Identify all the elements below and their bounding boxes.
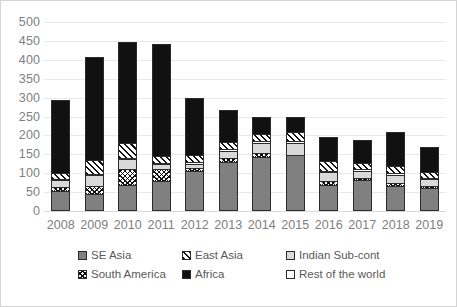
- x-axis-labels: 2008200920102011201220132014201520162017…: [44, 213, 446, 237]
- segment-2014-east-asia: [252, 134, 271, 142]
- bar-2016[interactable]: [319, 137, 338, 211]
- legend-swatch-east-asia: [182, 251, 191, 260]
- legend-swatch-south-america: [78, 270, 87, 279]
- segment-2016-south-america: [319, 181, 338, 185]
- segment-2014-se-asia: [252, 157, 271, 211]
- segment-2016-se-asia: [319, 185, 338, 211]
- bar-2014[interactable]: [252, 117, 271, 211]
- segment-2010-se-asia: [118, 185, 137, 211]
- segment-2011-rest-of-the-world: [152, 163, 171, 165]
- chart-legend: SE AsiaEast AsiaIndian Sub-contSouth Ame…: [78, 250, 408, 280]
- segment-2015-africa: [286, 117, 305, 132]
- x-tick-label-2015: 2015: [279, 213, 313, 237]
- y-tick-label-250: 250: [19, 110, 40, 124]
- x-tick-label-2012: 2012: [178, 213, 212, 237]
- segment-2013-rest-of-the-world: [219, 149, 238, 151]
- segment-2016-indian-sub-cont: [319, 172, 338, 181]
- segment-2016-rest-of-the-world: [319, 171, 338, 173]
- legend-label-rest-of-the-world: Rest of the world: [299, 269, 385, 281]
- segment-2011-east-asia: [152, 156, 171, 163]
- segment-2018-south-america: [386, 183, 405, 186]
- legend-item-east-asia[interactable]: East Asia: [182, 250, 286, 262]
- segment-2015-rest-of-the-world: [286, 141, 305, 143]
- bar-2008[interactable]: [51, 100, 70, 211]
- legend-item-rest-of-the-world[interactable]: Rest of the world: [286, 269, 408, 281]
- bar-slot-2018: [379, 22, 413, 211]
- bar-2018[interactable]: [386, 132, 405, 211]
- segment-2011-africa: [152, 44, 171, 156]
- bar-2012[interactable]: [185, 98, 204, 211]
- segment-2013-south-america: [219, 158, 238, 162]
- legend-swatch-rest-of-the-world: [286, 270, 295, 279]
- segment-2009-indian-sub-cont: [85, 175, 104, 186]
- segment-2015-indian-sub-cont: [286, 143, 305, 155]
- segment-2019-africa: [420, 147, 439, 172]
- segment-2019-se-asia: [420, 188, 439, 211]
- segment-2008-south-america: [51, 187, 70, 192]
- segment-2008-se-asia: [51, 191, 70, 211]
- segment-2009-africa: [85, 57, 104, 160]
- bar-2009[interactable]: [85, 57, 104, 211]
- segment-2009-rest-of-the-world: [85, 174, 104, 176]
- legend-item-indian-sub-cont[interactable]: Indian Sub-cont: [286, 250, 408, 262]
- bar-slot-2017: [346, 22, 380, 211]
- segment-2013-east-asia: [219, 142, 238, 150]
- y-tick-label-0: 0: [33, 204, 40, 218]
- x-tick-label-2014: 2014: [245, 213, 279, 237]
- x-tick-label-2017: 2017: [346, 213, 380, 237]
- segment-2010-indian-sub-cont: [118, 159, 137, 168]
- segment-2013-se-asia: [219, 162, 238, 211]
- segment-2016-africa: [319, 137, 338, 162]
- bar-2013[interactable]: [219, 110, 238, 211]
- segment-2009-south-america: [85, 186, 104, 194]
- y-tick-label-350: 350: [19, 72, 40, 86]
- bar-group: [44, 22, 446, 211]
- y-axis-labels: 500450400350300250200150100500: [0, 22, 40, 211]
- y-tick-label-300: 300: [19, 91, 40, 105]
- segment-2011-indian-sub-cont: [152, 164, 171, 169]
- bar-2017[interactable]: [353, 140, 372, 211]
- segment-2012-east-asia: [185, 155, 204, 162]
- segment-2008-indian-sub-cont: [51, 180, 70, 187]
- legend-swatch-indian-sub-cont: [286, 251, 295, 260]
- legend-label-east-asia: East Asia: [195, 250, 243, 262]
- segment-2018-rest-of-the-world: [386, 173, 405, 175]
- legend-label-south-america: South America: [91, 269, 166, 281]
- segment-2012-south-america: [185, 168, 204, 171]
- bar-slot-2008: [44, 22, 78, 211]
- x-tick-label-2011: 2011: [145, 213, 179, 237]
- segment-2014-south-america: [252, 153, 271, 157]
- legend-label-africa: Africa: [195, 269, 224, 281]
- bar-slot-2012: [178, 22, 212, 211]
- segment-2010-rest-of-the-world: [118, 158, 137, 160]
- legend-item-se-asia[interactable]: SE Asia: [78, 250, 182, 262]
- stacked-bar-chart: 500450400350300250200150100500 200820092…: [0, 0, 457, 307]
- segment-2009-east-asia: [85, 160, 104, 173]
- bar-slot-2019: [413, 22, 447, 211]
- plot-area: [44, 22, 446, 211]
- segment-2016-east-asia: [319, 161, 338, 170]
- segment-2013-indian-sub-cont: [219, 151, 238, 159]
- bar-slot-2013: [212, 22, 246, 211]
- bar-2010[interactable]: [118, 42, 137, 211]
- segment-2019-east-asia: [420, 172, 439, 178]
- bar-slot-2016: [312, 22, 346, 211]
- segment-2012-indian-sub-cont: [185, 164, 204, 169]
- legend-swatch-africa: [182, 270, 191, 279]
- segment-2010-south-america: [118, 169, 137, 185]
- y-tick-label-50: 50: [26, 185, 40, 199]
- legend-item-africa[interactable]: Africa: [182, 269, 286, 281]
- segment-2017-indian-sub-cont: [353, 171, 372, 179]
- segment-2012-africa: [185, 98, 204, 156]
- segment-2018-indian-sub-cont: [386, 175, 405, 183]
- bar-2015[interactable]: [286, 117, 305, 211]
- legend-item-south-america[interactable]: South America: [78, 269, 182, 281]
- segment-2008-rest-of-the-world: [51, 179, 70, 181]
- bar-slot-2014: [245, 22, 279, 211]
- bar-2011[interactable]: [152, 44, 171, 211]
- segment-2015-east-asia: [286, 132, 305, 141]
- bar-slot-2009: [78, 22, 112, 211]
- segment-2017-rest-of-the-world: [353, 169, 372, 171]
- bar-2019[interactable]: [420, 147, 439, 211]
- segment-2019-rest-of-the-world: [420, 178, 439, 180]
